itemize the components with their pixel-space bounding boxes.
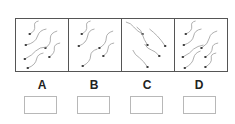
sperm-head xyxy=(158,55,161,57)
sperm-head xyxy=(146,66,149,68)
label-a: A xyxy=(25,78,59,92)
sperm-swarm-illustration-d xyxy=(175,19,227,71)
sperm-swarm-illustration-b xyxy=(69,19,121,71)
sperm-head xyxy=(102,55,105,57)
label-c: C xyxy=(130,78,164,92)
sperm-head xyxy=(146,44,149,46)
sperm-tail xyxy=(185,51,201,68)
sperm-head xyxy=(183,44,186,46)
sperm-tail xyxy=(83,49,98,66)
sperm-head xyxy=(204,56,207,58)
sperm-head xyxy=(48,56,51,58)
sperm-head xyxy=(80,33,83,35)
sperm-head xyxy=(78,45,81,47)
answer-box-d[interactable] xyxy=(183,96,216,114)
panel-strip xyxy=(15,18,228,72)
sperm-tail xyxy=(28,53,44,68)
sperm-tail xyxy=(103,43,114,56)
sperm-tail xyxy=(149,29,165,46)
sperm-tail xyxy=(184,29,202,45)
sperm-tail xyxy=(133,50,148,67)
sperm-head xyxy=(184,67,187,69)
sperm-tail xyxy=(186,21,196,34)
sperm-tail xyxy=(79,29,95,46)
sperm-head xyxy=(81,65,84,67)
sperm-head xyxy=(185,33,188,35)
sperm-tail xyxy=(126,22,143,34)
sperm-tail xyxy=(205,53,216,67)
label-d: D xyxy=(182,78,216,92)
sperm-head xyxy=(204,66,207,68)
sperm-swarm-illustration-c xyxy=(122,19,174,71)
sperm-head xyxy=(200,47,203,49)
sperm-tail xyxy=(99,31,113,48)
panel-d xyxy=(174,19,227,71)
sperm-head xyxy=(24,58,27,60)
sperm-tail xyxy=(26,29,47,45)
panel-c xyxy=(121,19,174,71)
sperm-tail xyxy=(30,21,39,34)
sperm-head xyxy=(26,67,29,69)
sperm-swarm-illustration-a xyxy=(16,19,68,71)
sperm-tail xyxy=(137,27,148,45)
panel-b xyxy=(68,19,121,71)
sperm-head xyxy=(25,44,28,46)
answer-box-c[interactable] xyxy=(130,96,163,114)
sperm-tail xyxy=(49,43,60,57)
sperm-head xyxy=(164,45,167,47)
panel-a xyxy=(16,19,68,71)
sperm-head xyxy=(28,33,31,35)
sperm-head xyxy=(98,47,101,49)
label-b: B xyxy=(77,78,111,92)
answer-box-a[interactable] xyxy=(24,96,57,114)
answer-box-b[interactable] xyxy=(77,96,110,114)
sperm-head xyxy=(182,56,185,58)
sperm-tail xyxy=(201,31,217,48)
